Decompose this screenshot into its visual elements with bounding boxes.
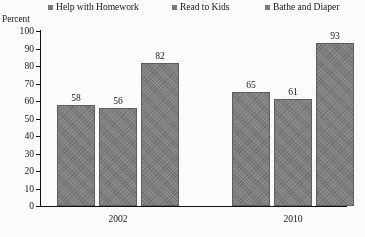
legend-item-read-to-kids: Read to Kids (172, 1, 230, 13)
bar (99, 108, 137, 206)
y-axis-tick-mark (36, 119, 40, 120)
y-axis-tick-label: 30 (24, 149, 34, 159)
y-axis-tick-label: 20 (24, 166, 34, 176)
y-axis-tick-label: 70 (24, 79, 34, 89)
x-axis-category-label: 2002 (108, 213, 127, 224)
legend-swatch-icon (172, 5, 177, 10)
chart-legend: Help with Homework Read to Kids Bathe an… (0, 0, 365, 16)
y-axis-tick-mark (36, 206, 40, 207)
bar (316, 43, 354, 206)
y-axis-tick-label: 80 (24, 61, 34, 71)
y-axis-tick-label: 40 (24, 131, 34, 141)
y-axis-tick-label: 10 (24, 184, 34, 194)
bar-value-label: 56 (113, 95, 123, 106)
grouped-bar-chart: Help with Homework Read to Kids Bathe an… (0, 0, 365, 237)
y-axis-title: Percent (2, 14, 30, 25)
bar-value-label: 82 (155, 50, 165, 61)
y-axis-line (40, 30, 41, 207)
y-axis-tick-mark (36, 171, 40, 172)
y-axis-tick-label: 0 (29, 201, 34, 211)
y-axis-tick-mark (36, 49, 40, 50)
legend-swatch-icon (265, 5, 270, 10)
bar (274, 99, 312, 206)
plot-area: 1009080706050403020100 585682656193 (40, 30, 365, 207)
legend-item-bathe-and-diaper: Bathe and Diaper (265, 1, 339, 13)
y-axis-tick-label: 100 (20, 26, 34, 36)
y-axis-tick-mark (36, 136, 40, 137)
y-axis-tick-mark (36, 84, 40, 85)
legend-swatch-icon (48, 5, 53, 10)
bar (141, 63, 179, 207)
y-axis-tick-label: 60 (24, 96, 34, 106)
bar (232, 92, 270, 206)
y-axis-tick-mark (36, 154, 40, 155)
legend-item-label: Read to Kids (180, 1, 230, 13)
legend-item-label: Help with Homework (56, 1, 139, 13)
bar-value-label: 58 (71, 92, 81, 103)
y-axis-tick-mark (36, 31, 40, 32)
x-axis-line (40, 206, 347, 207)
bar-value-label: 61 (288, 86, 298, 97)
bar (57, 105, 95, 207)
legend-item-help-with-homework: Help with Homework (48, 1, 139, 13)
bar-value-label: 65 (246, 79, 256, 90)
y-axis-tick-label: 50 (24, 114, 34, 124)
y-axis-tick-mark (36, 66, 40, 67)
y-axis-tick-label: 90 (24, 44, 34, 54)
y-axis-tick-mark (36, 189, 40, 190)
x-axis-category-label: 2010 (283, 213, 302, 224)
y-axis-tick-mark (36, 101, 40, 102)
legend-item-label: Bathe and Diaper (273, 1, 339, 13)
bar-value-label: 93 (330, 30, 340, 41)
